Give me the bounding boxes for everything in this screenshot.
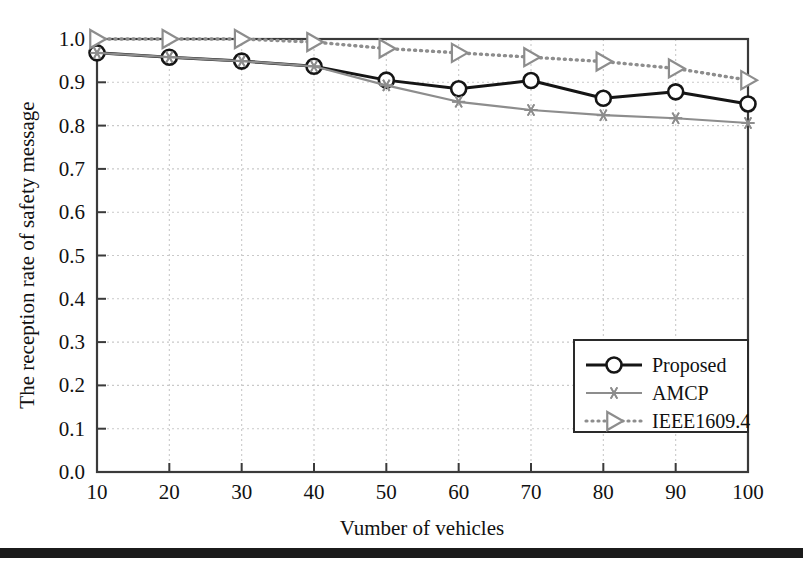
y-tick-label: 0.1	[59, 417, 85, 441]
y-tick-label: 1.0	[59, 27, 85, 51]
y-tick-label: 0.6	[59, 200, 85, 224]
data-point-marker	[597, 53, 613, 71]
data-point-marker	[524, 73, 539, 88]
legend-label: AMCP	[652, 382, 709, 404]
legend-item[interactable]: IEEE1609.4	[586, 410, 750, 432]
data-point-marker	[525, 104, 538, 115]
y-axis-tick-marks	[97, 39, 106, 472]
data-point-marker	[451, 81, 466, 96]
x-tick-label: 80	[593, 480, 614, 504]
legend-label: Proposed	[652, 354, 726, 377]
x-axis-title: Vumber of vehicles	[340, 516, 504, 540]
data-point-marker	[380, 40, 396, 58]
y-tick-label: 0.8	[59, 114, 85, 138]
page-bottom-rule	[0, 548, 803, 558]
data-point-marker	[596, 91, 611, 106]
data-point-marker	[235, 30, 251, 48]
x-tick-label: 40	[304, 480, 325, 504]
data-point-marker	[668, 84, 683, 99]
x-tick-label: 50	[376, 480, 397, 504]
x-tick-label: 70	[521, 480, 542, 504]
legend-label: IEEE1609.4	[652, 410, 750, 432]
data-series	[90, 45, 756, 111]
data-point-marker	[741, 71, 757, 89]
y-tick-label: 0.5	[59, 244, 85, 268]
x-tick-label: 30	[231, 480, 252, 504]
y-axis-title: The reception rate of safety message	[15, 101, 39, 408]
y-axis-tick-labels: 0.00.10.20.30.40.50.60.70.80.91.0	[59, 27, 86, 484]
data-point-marker	[524, 48, 540, 66]
data-point-marker	[163, 30, 179, 48]
x-tick-label: 20	[159, 480, 180, 504]
chart-legend[interactable]: ProposedAMCPIEEE1609.4	[574, 340, 750, 432]
data-point-marker	[452, 44, 468, 62]
data-point-marker	[307, 33, 323, 51]
y-tick-label: 0.2	[59, 373, 85, 397]
data-point-marker	[669, 59, 685, 77]
x-tick-label: 90	[665, 480, 686, 504]
y-tick-label: 0.3	[59, 330, 85, 354]
y-tick-label: 0.0	[59, 460, 85, 484]
x-tick-label: 10	[87, 480, 108, 504]
x-axis-tick-labels: 102030405060708090100	[87, 480, 764, 504]
data-series-group	[90, 30, 758, 129]
x-tick-label: 60	[448, 480, 469, 504]
y-tick-label: 0.7	[59, 157, 85, 181]
figure-container: 102030405060708090100 0.00.10.20.30.40.5…	[0, 0, 803, 566]
legend-marker	[607, 358, 622, 373]
y-tick-label: 0.4	[59, 287, 86, 311]
x-axis-tick-marks	[97, 463, 748, 472]
y-tick-label: 0.9	[59, 70, 85, 94]
line-chart: 102030405060708090100 0.00.10.20.30.40.5…	[0, 0, 803, 566]
data-point-marker	[741, 96, 756, 111]
x-tick-label: 100	[732, 480, 764, 504]
